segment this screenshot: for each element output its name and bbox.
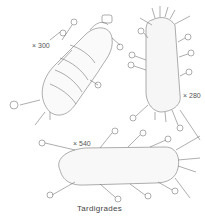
tardigrade-illustration bbox=[0, 0, 205, 220]
figure-caption: Tardigrades bbox=[77, 204, 122, 213]
magnification-label-3: × 540 bbox=[73, 140, 91, 147]
magnification-label-2: × 280 bbox=[183, 92, 201, 99]
specimen-2-drawing bbox=[128, 6, 200, 140]
magnification-label-1: × 300 bbox=[32, 42, 50, 49]
specimen-1-drawing bbox=[10, 15, 123, 125]
specimen-3-drawing bbox=[39, 128, 200, 202]
